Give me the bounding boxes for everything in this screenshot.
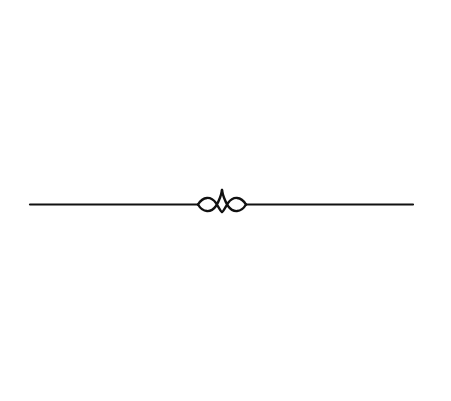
ornamental-divider	[0, 0, 451, 401]
flourish-ornament-icon	[198, 190, 246, 212]
